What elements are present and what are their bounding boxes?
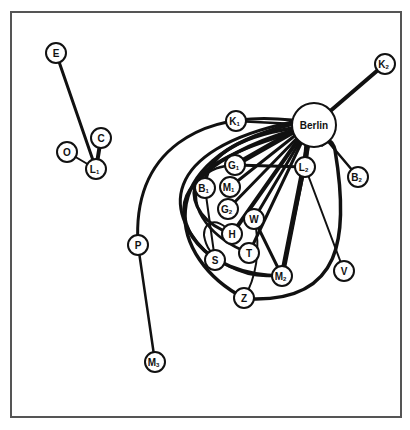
node-label: Z (241, 293, 247, 304)
node-label: O (63, 147, 71, 158)
edge-p-m3 (138, 245, 155, 362)
node-label: W (249, 214, 259, 225)
node-o: O (57, 142, 77, 162)
node-m2: M2 (272, 266, 292, 286)
node-label: V (341, 266, 348, 277)
node-v: V (334, 261, 354, 281)
node-c: C (91, 128, 111, 148)
node-p: P (128, 235, 148, 255)
node-z: Z (234, 288, 254, 308)
nodes-layer: ECOL1K1BerlinK2B2G1L2B1M1G2WHTSM2VZPM3 (46, 43, 395, 372)
node-m1: M1 (220, 177, 240, 197)
node-g2: G2 (218, 199, 238, 219)
node-k2: K2 (375, 54, 395, 74)
node-l2: L2 (295, 157, 315, 177)
node-berlin: Berlin (292, 103, 336, 147)
node-label: H (228, 229, 235, 240)
node-label: T (246, 248, 252, 259)
node-s: S (205, 250, 225, 270)
node-label: C (97, 133, 104, 144)
node-b2: B2 (348, 167, 368, 187)
node-label: Berlin (300, 120, 328, 131)
node-h: H (222, 224, 242, 244)
node-k1: K1 (226, 111, 246, 131)
node-t: T (239, 243, 259, 263)
node-b1: B1 (195, 178, 215, 198)
node-e: E (46, 43, 66, 63)
node-w: W (244, 209, 264, 229)
edge-m2-l2 (282, 167, 305, 276)
node-label: S (212, 255, 219, 266)
node-l1: L1 (86, 159, 106, 179)
node-m3: M3 (145, 352, 165, 372)
node-g1: G1 (225, 155, 245, 175)
network-diagram: ECOL1K1BerlinK2B2G1L2B1M1G2WHTSM2VZPM3 (0, 0, 410, 430)
node-label: E (53, 48, 60, 59)
node-label: P (135, 240, 142, 251)
